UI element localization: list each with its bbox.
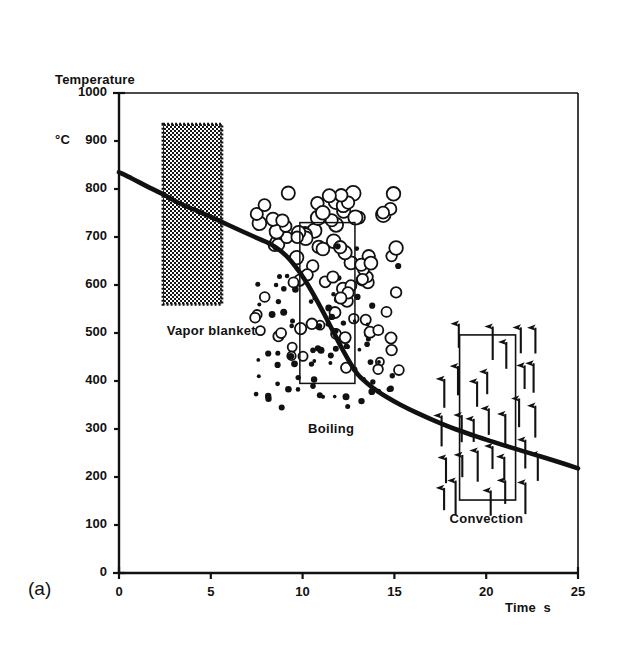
bubble-filled xyxy=(254,392,259,397)
bubble-filled xyxy=(255,282,260,287)
bubble-filled xyxy=(269,311,276,318)
bubble-filled xyxy=(257,303,261,307)
bubble-open xyxy=(364,257,377,270)
bubble-filled xyxy=(390,373,395,378)
bubble-open xyxy=(276,214,288,226)
vapor-blanket-region xyxy=(163,124,222,304)
bubble-filled xyxy=(358,398,364,404)
bubble-filled xyxy=(309,299,314,304)
bubble-open xyxy=(389,241,403,255)
bubble-open xyxy=(335,189,348,202)
bubble-open xyxy=(316,206,330,220)
bubble-open xyxy=(373,325,383,335)
bubble-open xyxy=(276,328,286,338)
vapor-blanket-fill xyxy=(163,124,222,304)
quench-curve-figure: Temperature °C Time s (a) 01002003004005… xyxy=(0,0,624,653)
bubble-open xyxy=(373,365,383,375)
bubble-filled xyxy=(310,348,316,354)
bubble-filled xyxy=(279,404,285,410)
bubble-filled xyxy=(311,376,317,382)
bubble-filled xyxy=(275,362,281,368)
bubble-filled xyxy=(290,319,295,324)
bubble-filled xyxy=(343,393,350,400)
bubble-open xyxy=(357,274,368,285)
bubble-open xyxy=(385,332,396,343)
bubble-filled xyxy=(329,314,335,320)
bubble-filled xyxy=(291,360,298,367)
bubble-filled xyxy=(277,274,282,279)
bubble-open xyxy=(335,292,346,303)
bubble-filled xyxy=(377,360,381,364)
bubble-filled xyxy=(309,361,314,366)
bubble-filled xyxy=(256,358,260,362)
bubble-filled xyxy=(328,361,332,365)
bubble-filled xyxy=(358,348,362,352)
bubble-filled xyxy=(274,283,279,288)
bubble-open xyxy=(391,287,402,298)
bubble-filled xyxy=(368,359,374,365)
convection-region xyxy=(442,324,538,516)
bubble-open xyxy=(382,307,392,317)
bubble-filled xyxy=(265,393,271,399)
bubble-filled xyxy=(285,274,290,279)
bubble-open xyxy=(259,199,271,211)
bubble-open xyxy=(288,343,297,352)
bubble-filled xyxy=(276,351,280,355)
bubble-open xyxy=(295,323,306,334)
bubble-filled xyxy=(395,263,401,269)
bubble-filled xyxy=(333,346,339,352)
bubble-open xyxy=(289,277,299,287)
bubble-filled xyxy=(369,303,375,309)
plot-canvas xyxy=(0,0,624,653)
bubble-filled xyxy=(366,323,370,327)
bubble-open xyxy=(323,189,336,202)
bubble-filled xyxy=(387,386,393,392)
bubble-open xyxy=(386,345,397,356)
bubble-filled xyxy=(335,243,341,249)
bubble-filled xyxy=(280,309,287,316)
bubble-filled xyxy=(345,404,350,409)
bubble-filled xyxy=(328,353,334,359)
bubble-open xyxy=(317,243,330,256)
bubble-filled xyxy=(285,386,292,393)
bubble-open xyxy=(377,207,389,219)
bubble-open xyxy=(387,187,401,201)
bubble-filled xyxy=(344,344,350,350)
bubble-filled xyxy=(333,395,337,399)
bubble-filled xyxy=(325,305,332,312)
bubble-open xyxy=(361,315,371,325)
bubble-filled xyxy=(341,320,346,325)
bubble-filled xyxy=(276,299,281,304)
bubble-filled xyxy=(316,323,322,329)
bubble-filled xyxy=(275,381,280,386)
bubble-open xyxy=(340,332,351,343)
bubble-open xyxy=(327,271,338,282)
bubble-filled xyxy=(317,392,323,398)
bubble-open xyxy=(282,187,295,200)
bubble-filled xyxy=(257,374,261,378)
bubble-filled xyxy=(288,353,295,360)
bubble-open xyxy=(291,232,303,244)
bubble-open xyxy=(250,313,260,323)
bubble-open xyxy=(307,319,318,330)
bubble-filled xyxy=(265,350,271,356)
bubble-filled xyxy=(289,324,294,329)
bubble-filled xyxy=(296,387,301,392)
boiling-region xyxy=(250,186,404,410)
bubble-open xyxy=(256,326,265,335)
bubble-filled xyxy=(364,342,370,348)
bubble-open xyxy=(394,365,404,375)
bubble-filled xyxy=(318,347,325,354)
bubble-open xyxy=(260,292,270,302)
bubble-filled xyxy=(281,286,287,292)
